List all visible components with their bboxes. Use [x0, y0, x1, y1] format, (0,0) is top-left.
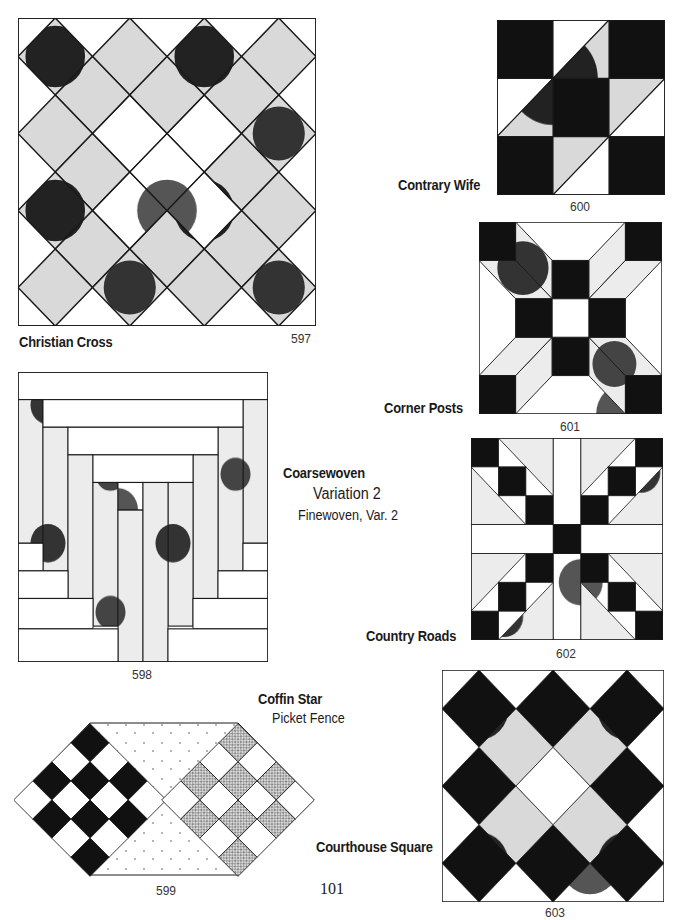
quilt-block-603-courthouse-square	[442, 670, 664, 902]
block-number-600: 600	[570, 200, 590, 214]
corner-posts-pattern	[479, 222, 662, 414]
quilt-block-599-coffin-star	[14, 720, 316, 878]
block-name-597: Christian Cross	[19, 333, 112, 350]
coffin-star-pattern	[14, 720, 316, 878]
quilt-block-598-coarsewoven	[18, 372, 268, 662]
block-number-599: 599	[156, 884, 176, 898]
block-alt-name-598-2: Finewoven, Var. 2	[298, 507, 398, 523]
block-name-602: Country Roads	[366, 627, 456, 644]
block-number-598: 598	[132, 668, 152, 682]
block-number-597: 597	[291, 332, 311, 346]
block-alt-name-598-1: Variation 2	[313, 485, 381, 503]
christian-cross-pattern	[18, 18, 316, 326]
quilt-block-601-corner-posts	[479, 222, 662, 414]
block-name-601: Corner Posts	[384, 399, 463, 416]
block-name-600: Contrary Wife	[398, 176, 480, 193]
quilt-block-597-christian-cross	[18, 18, 316, 326]
block-name-603: Courthouse Square	[316, 838, 433, 855]
contrary-wife-pattern	[497, 20, 665, 195]
block-number-601: 601	[560, 420, 580, 434]
page-number: 101	[320, 880, 344, 898]
quilt-block-600-contrary-wife	[497, 20, 665, 195]
courthouse-square-pattern	[442, 670, 664, 902]
coarsewoven-pattern	[18, 372, 268, 662]
block-number-602: 602	[556, 647, 576, 661]
block-alt-name-599-1: Picket Fence	[272, 710, 345, 726]
quilt-block-602-country-roads	[471, 438, 663, 640]
block-name-599: Coffin Star	[258, 690, 322, 707]
country-roads-pattern	[471, 438, 663, 640]
block-name-598: Coarsewoven	[283, 464, 365, 481]
block-number-603: 603	[545, 906, 565, 920]
